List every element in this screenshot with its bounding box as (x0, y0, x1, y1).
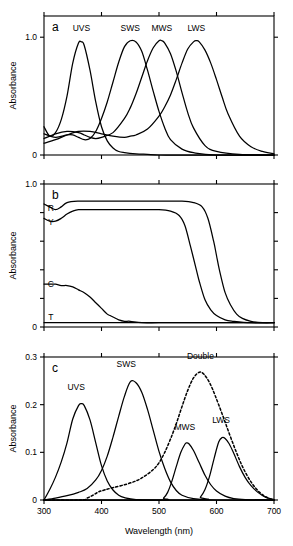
panel-b-frame (44, 184, 274, 327)
curve-label-a-uvs: UVS (73, 23, 91, 33)
y-ticklabel-a-1: 1.0 (25, 32, 37, 42)
x-ticklabel-4: 700 (267, 506, 281, 516)
curve-label-a-mws: MWS (151, 23, 172, 33)
curve-label-c-mws: MWS (174, 422, 195, 432)
y-ticklabel-c-1: 0.1 (25, 447, 37, 457)
y-axis-title-c: Absorbance (8, 404, 18, 452)
x-ticklabel-0: 300 (37, 506, 51, 516)
curve-label-a-lws: LWS (187, 23, 205, 33)
y-ticklabel-b-5: 1.0 (25, 179, 37, 189)
panel-letter-a: a (52, 20, 59, 34)
panel-a-frame (44, 16, 274, 155)
x-ticklabel-3: 600 (209, 506, 223, 516)
curve-label-c-lws: LWS (212, 415, 230, 425)
y-axis-title-a: Absorbance (8, 61, 18, 109)
y-ticklabel-c-0: 0 (32, 495, 37, 505)
x-ticklabel-2: 500 (152, 506, 166, 516)
absorbance-spectra-figure: 01.0aAbsorbance01.0bAbsorbance00.10.20.3… (0, 0, 293, 546)
y-ticklabel-b-0: 0 (32, 322, 37, 332)
curve-label-c-double: Double (187, 351, 214, 361)
panel-c: 00.10.20.3300400500600700cAbsorbance (8, 352, 281, 516)
curve-label-b-t: T (48, 312, 53, 322)
x-axis-title-group: Wavelength (nm) (125, 526, 193, 536)
curve-label-b-y: Y (48, 217, 54, 227)
curve-label-b-r: R (48, 203, 54, 213)
x-axis-title: Wavelength (nm) (125, 526, 193, 536)
panel-letter-b: b (52, 188, 59, 202)
curve-label-c-uvs: UVS (67, 382, 85, 392)
y-ticklabel-c-3: 0.3 (25, 352, 37, 362)
y-ticklabel-a-0: 0 (32, 150, 37, 160)
panel-a: 01.0aAbsorbance (8, 12, 278, 160)
x-ticklabel-1: 400 (94, 506, 108, 516)
y-ticklabel-c-2: 0.2 (25, 400, 37, 410)
y-axis-title-b: Absorbance (8, 231, 18, 279)
panel-c-frame (44, 357, 274, 500)
curve-label-a-sws: SWS (121, 23, 141, 33)
curve-label-c-sws: SWS (117, 359, 137, 369)
curve-label-b-c: C (48, 279, 54, 289)
figure-container: 01.0aAbsorbance01.0bAbsorbance00.10.20.3… (0, 0, 293, 546)
panel-letter-c: c (52, 361, 58, 375)
